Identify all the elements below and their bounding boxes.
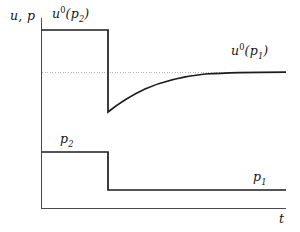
annotation-u0-p1-base: p <box>250 43 258 58</box>
pressure-step-curve <box>42 152 287 190</box>
x-axis-label-text: t <box>279 211 284 226</box>
y-axis-label-text: u, p <box>10 8 35 23</box>
annotation-u0-p1-paren-close: ) <box>263 43 268 58</box>
annotation-u0-p1: u0(p1) <box>231 45 269 58</box>
y-axis-label: u, p <box>10 10 35 23</box>
annotation-p1: p1 <box>253 171 267 184</box>
annotation-u0-p2-base: p <box>71 6 79 21</box>
annotation-u0-p2-paren-close: ) <box>84 6 89 21</box>
annotation-p1-subscript: 1 <box>261 177 266 187</box>
annotation-p2: p2 <box>60 133 74 146</box>
x-axis-label: t <box>279 213 284 226</box>
annotation-p2-subscript: 2 <box>68 139 73 149</box>
annotation-u0-p2: u0(p2) <box>52 8 90 21</box>
figure-container: u, p t u0(p2) u0(p1) p2 p1 <box>0 0 300 232</box>
plot-canvas <box>0 0 300 232</box>
